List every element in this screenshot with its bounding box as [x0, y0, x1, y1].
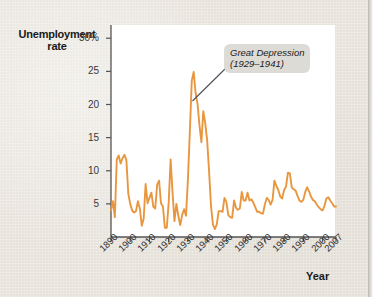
annotation-leader-line	[193, 67, 228, 101]
chart-figure: Unemployment rate Year Great Depression …	[0, 0, 373, 297]
y-tick-label: 15	[59, 132, 99, 143]
y-axis-ticks	[106, 38, 111, 204]
y-tick-label: 10	[59, 165, 99, 176]
great-depression-annotation: Great Depression (1929–1941)	[224, 44, 310, 73]
y-tick-label: 5	[59, 198, 99, 209]
annotation-line2: (1929–1941)	[230, 58, 304, 69]
data-series-group	[111, 72, 336, 229]
y-tick-label: 25	[59, 65, 99, 76]
annotation-line1: Great Depression	[230, 47, 304, 58]
unemployment-rate-line	[111, 72, 336, 229]
y-tick-label: 30%	[59, 32, 99, 43]
y-tick-label: 20	[59, 99, 99, 110]
